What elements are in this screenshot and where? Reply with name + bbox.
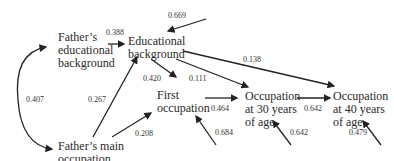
node-label-line: occupation	[58, 153, 124, 161]
coef-father-edu-to-edu-bg: 0.388	[106, 28, 124, 37]
node-occupation-at-30: Occupation at 30 years of age	[245, 90, 300, 129]
coef-father-occ-to-first-occ: 0.208	[135, 129, 153, 138]
node-label-line: background	[128, 48, 185, 61]
node-occupation-at-40: Occupation at 40 years of age	[333, 90, 388, 129]
coef-edu-bg-to-first-occ: 0.420	[143, 74, 161, 83]
coef-correlation: 0.407	[26, 95, 44, 104]
coef-father-occ-to-edu-bg: 0.267	[88, 95, 106, 104]
coef-residual-first-occ: 0.684	[215, 128, 233, 137]
coef-residual-occ-40: 0.479	[349, 128, 367, 137]
residual-first-occ	[196, 116, 216, 145]
node-label-line: occupation	[157, 102, 210, 115]
coef-residual-edu-bg: 0.669	[168, 11, 186, 20]
residual-edu-bg	[168, 19, 206, 31]
coef-edu-bg-to-occ-30: 0.111	[189, 74, 206, 83]
coef-edu-bg-to-occ-40: 0.138	[243, 55, 261, 64]
node-first-occupation: First occupation	[157, 89, 210, 115]
coef-residual-occ-30: 0.642	[290, 128, 308, 137]
node-educational-background: Educational background	[128, 35, 185, 61]
coef-first-occ-to-occ-30: 0.464	[211, 104, 229, 113]
node-label-line: background	[58, 57, 115, 70]
coef-occ-30-to-occ-40: 0.642	[304, 104, 322, 113]
node-fathers-main-occupation: Father’s main occupation	[58, 140, 124, 161]
